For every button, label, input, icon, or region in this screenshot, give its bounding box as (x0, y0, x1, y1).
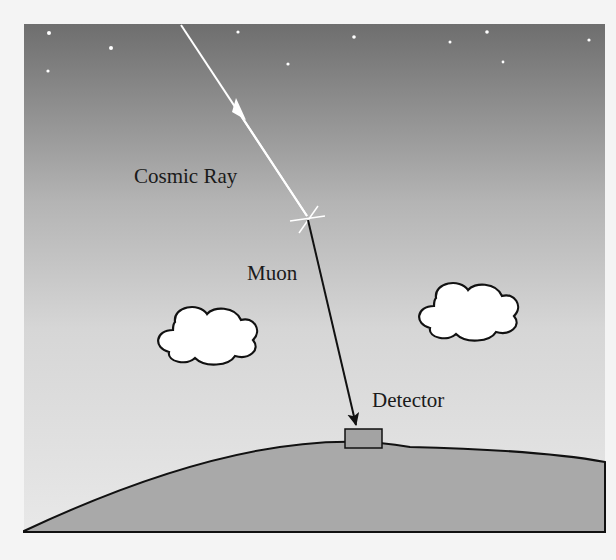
detector-box (345, 429, 382, 448)
detector-label: Detector (372, 388, 444, 412)
cosmic-ray-diagram: Cosmic Ray Muon Detector (0, 0, 616, 560)
muon-label: Muon (247, 261, 298, 285)
cosmic-ray-label: Cosmic Ray (134, 164, 238, 188)
